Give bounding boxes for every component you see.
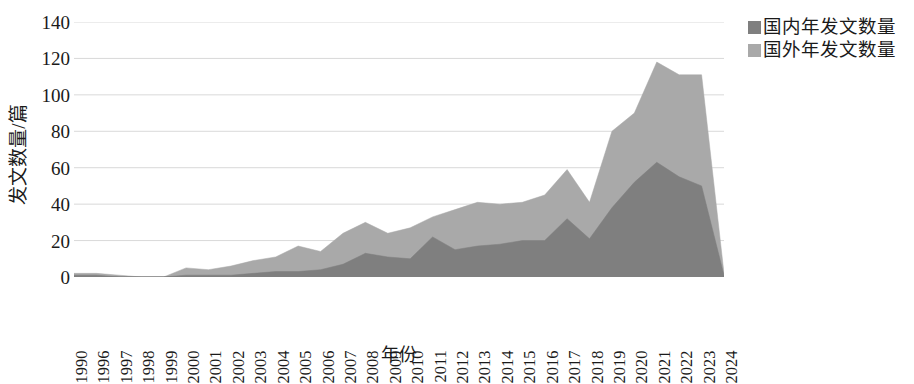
- legend-label: 国内年发文数量: [763, 18, 896, 37]
- y-axis-tick-label: 40: [28, 195, 70, 214]
- legend-label: 国外年发文数量: [763, 41, 896, 60]
- y-axis-tick-label: 60: [28, 158, 70, 177]
- x-axis-title-label: 年份: [381, 345, 417, 365]
- legend-swatch-icon: [748, 44, 761, 57]
- y-axis-title-label: 发文数量/篇: [3, 104, 30, 204]
- x-axis-tick-labels: 1990199619971998199920002001200220032004…: [74, 279, 724, 337]
- y-axis-title: 发文数量/篇: [2, 54, 30, 254]
- legend-item[interactable]: 国内年发文数量: [748, 16, 912, 39]
- y-axis-tick-label: 100: [28, 85, 70, 104]
- y-axis-tick-label: 80: [28, 122, 70, 141]
- y-axis-tick-label: 120: [28, 49, 70, 68]
- legend-item[interactable]: 国外年发文数量: [748, 39, 912, 62]
- x-axis-title: 年份: [74, 340, 724, 366]
- legend-swatch-icon: [748, 21, 761, 34]
- plot-area: [74, 22, 724, 277]
- y-axis-tick-label: 20: [28, 231, 70, 250]
- x-axis-tick-label: 2024: [724, 334, 741, 367]
- y-axis-tick-label: 0: [28, 268, 70, 287]
- y-axis-tick-label: 140: [28, 13, 70, 32]
- chart-legend: 国内年发文数量国外年发文数量: [748, 16, 912, 62]
- series-areas: [74, 62, 724, 277]
- y-axis-tick-labels: 020406080100120140: [28, 0, 70, 366]
